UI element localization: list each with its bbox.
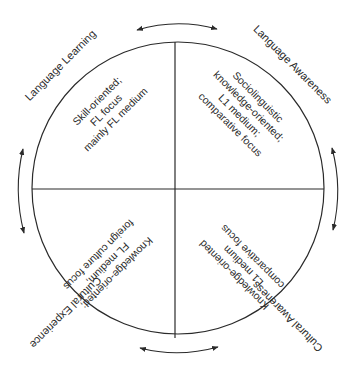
four-quadrant-circle-diagram: Language Learning Language Awareness Cul… xyxy=(0,0,352,367)
left-double-arrow-icon xyxy=(18,149,24,233)
top-double-arrow-icon xyxy=(137,24,217,30)
quadrant-top-right-text: Sociolinguistic knowledge-oriented; L1 m… xyxy=(193,59,296,162)
quadrant-top-left-text: Skill-oriented; FL focus mainly FL mediu… xyxy=(62,66,149,153)
right-double-arrow-icon xyxy=(332,148,338,230)
label-language-learning: Language Learning xyxy=(22,27,98,103)
bottom-double-arrow-icon xyxy=(140,347,218,353)
label-cultural-awareness: Cultural Awareness xyxy=(249,279,325,355)
